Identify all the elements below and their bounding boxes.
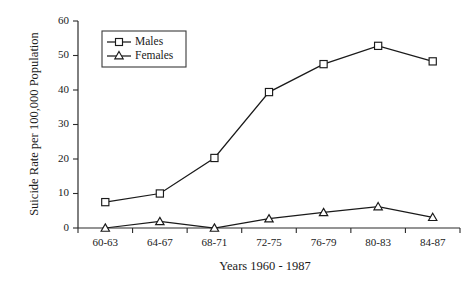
x-tick-label-64-67: 64-67	[147, 236, 173, 248]
y-tick-label-20: 20	[58, 152, 70, 164]
chart-canvas: Suicide Rate per 100,000 Population 0102…	[0, 0, 474, 284]
y-axis-title: Suicide Rate per 100,000 Population	[27, 31, 41, 215]
y-tick-label-60: 60	[58, 14, 70, 26]
data-point-males-68-71	[211, 154, 218, 161]
data-point-males-60-63	[102, 199, 109, 206]
chart-legend: Males Females	[102, 31, 186, 67]
legend-marker-square-icon	[116, 39, 123, 46]
x-tick-label-84-87: 84-87	[420, 236, 446, 248]
y-tick-label-50: 50	[58, 48, 70, 60]
x-tick-label-60-63: 60-63	[92, 236, 118, 248]
data-point-males-72-75	[265, 88, 272, 95]
y-tick-label-30: 30	[58, 117, 70, 129]
x-tick-label-68-71: 68-71	[202, 236, 228, 248]
y-tick-label-0: 0	[64, 221, 70, 233]
x-tick-label-76-79: 76-79	[311, 236, 337, 248]
legend-label-males: Males	[135, 35, 164, 47]
legend-label-females: Females	[135, 49, 174, 61]
data-point-males-64-67	[156, 190, 163, 197]
y-tick-label-10: 10	[58, 186, 70, 198]
x-tick-label-80-83: 80-83	[365, 236, 391, 248]
x-axis-title: Years 1960 - 1987	[219, 259, 310, 273]
suicide-rate-line-chart: Suicide Rate per 100,000 Population 0102…	[0, 0, 474, 284]
data-point-males-76-79	[320, 61, 327, 68]
data-point-males-84-87	[429, 58, 436, 65]
x-tick-label-72-75: 72-75	[256, 236, 282, 248]
chart-background	[0, 0, 474, 284]
y-tick-label-40: 40	[58, 83, 70, 95]
data-point-males-80-83	[375, 42, 382, 49]
